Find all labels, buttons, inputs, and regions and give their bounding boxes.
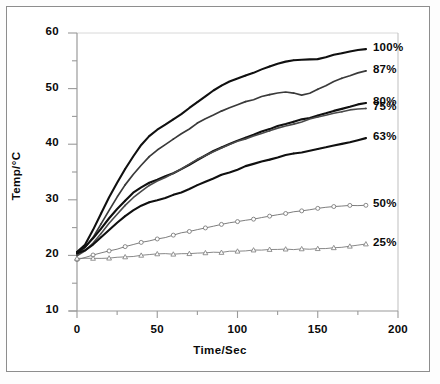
series-marker	[100, 213, 102, 215]
series-marker	[317, 58, 319, 60]
series-marker	[139, 240, 143, 244]
series-marker	[187, 229, 191, 233]
series-marker	[293, 153, 295, 155]
series-marker	[124, 205, 126, 207]
series-marker	[148, 201, 150, 203]
series-marker	[365, 48, 367, 50]
series-marker	[293, 59, 295, 61]
series-marker	[221, 174, 223, 176]
series-line-63pct	[77, 138, 366, 253]
x-tick-label: 50	[127, 323, 187, 335]
series-marker	[100, 228, 102, 230]
series-marker	[341, 77, 343, 79]
series-marker	[221, 110, 223, 112]
series-marker	[269, 66, 271, 68]
y-axis-title: Temp/°C	[10, 116, 22, 236]
series-marker	[100, 236, 102, 238]
series-marker	[341, 108, 343, 110]
series-marker	[341, 143, 343, 145]
y-tick-label: 10	[11, 303, 59, 315]
series-marker	[365, 137, 367, 139]
series-marker	[124, 200, 126, 202]
series-marker	[293, 121, 295, 123]
series-marker	[172, 194, 174, 196]
chart-figure: Temp/°C Time/Sec 05010015020010203040506…	[0, 0, 440, 384]
series-marker	[148, 185, 150, 187]
x-tick-label: 0	[47, 323, 107, 335]
series-marker	[124, 168, 126, 170]
series-marker	[293, 92, 295, 94]
x-tick-label: 100	[208, 323, 268, 335]
series-marker	[316, 206, 320, 210]
series-label-63pct: 63%	[373, 130, 397, 142]
series-marker	[197, 101, 199, 103]
series-marker	[221, 147, 223, 149]
series-marker	[172, 118, 174, 120]
y-tick-label: 30	[11, 192, 59, 204]
series-marker	[364, 203, 368, 207]
series-marker	[245, 165, 247, 167]
series-marker	[365, 108, 367, 110]
series-marker	[203, 226, 207, 230]
series-label-50pct: 50%	[373, 197, 397, 209]
series-marker	[332, 205, 336, 209]
series-line-100pct	[77, 49, 366, 252]
series-marker	[268, 214, 272, 218]
series-marker	[219, 222, 223, 226]
series-marker	[107, 249, 111, 253]
series-marker	[269, 159, 271, 161]
series-marker	[148, 156, 150, 158]
series-marker	[245, 75, 247, 77]
series-marker	[236, 220, 240, 224]
series-marker	[269, 94, 271, 96]
series-label-25pct: 25%	[373, 236, 397, 248]
series-marker	[317, 88, 319, 90]
x-tick-label: 200	[368, 323, 428, 335]
series-marker	[317, 148, 319, 150]
series-marker	[171, 233, 175, 237]
series-marker	[317, 116, 319, 118]
series-marker	[245, 138, 247, 140]
series-marker	[155, 237, 159, 241]
series-marker	[269, 130, 271, 132]
series-marker	[148, 135, 150, 137]
series-marker	[100, 223, 102, 225]
series-label-100pct: 100%	[373, 41, 404, 53]
series-marker	[197, 158, 199, 160]
series-marker	[284, 211, 288, 215]
series-marker	[124, 184, 126, 186]
series-marker	[245, 101, 247, 103]
series-marker	[148, 182, 150, 184]
series-marker	[365, 70, 367, 72]
series-marker	[293, 123, 295, 125]
series-marker	[76, 253, 78, 255]
series-label-87pct: 87%	[373, 63, 397, 75]
y-tick-label: 50	[11, 81, 59, 93]
series-marker	[341, 111, 343, 113]
series-marker	[172, 173, 174, 175]
series-marker	[123, 245, 127, 249]
x-tick-label: 150	[288, 323, 348, 335]
y-tick-label: 40	[11, 136, 59, 148]
series-marker	[341, 52, 343, 54]
y-tick-label: 20	[11, 247, 59, 259]
series-marker	[364, 242, 369, 246]
series-marker	[348, 203, 352, 207]
series-marker	[172, 138, 174, 140]
series-marker	[197, 122, 199, 124]
series-marker	[221, 85, 223, 87]
y-tick-label: 60	[11, 25, 59, 37]
series-marker	[100, 233, 102, 235]
series-marker	[365, 102, 367, 104]
series-marker	[300, 209, 304, 213]
series-marker	[269, 128, 271, 130]
series-marker	[252, 217, 256, 221]
series-marker	[197, 184, 199, 186]
x-axis-title: Time/Sec	[0, 344, 440, 356]
series-marker	[124, 215, 126, 217]
series-line-75pct	[77, 108, 366, 255]
series-label-75pct: 75%	[373, 100, 397, 112]
